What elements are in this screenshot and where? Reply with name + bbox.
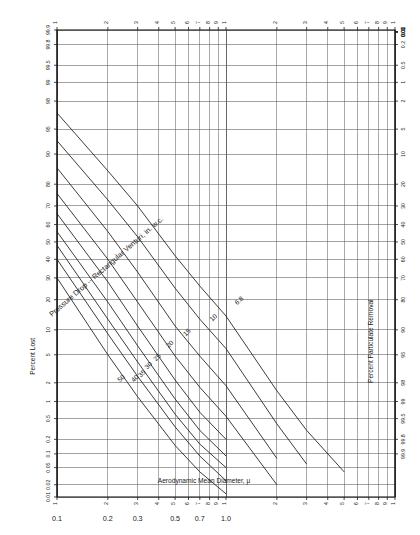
tick-label-top-16: 8 bbox=[374, 21, 380, 24]
tick-label-top-4: 5 bbox=[170, 21, 176, 24]
tick-label-top-17: 9 bbox=[382, 21, 388, 24]
axis-title-right: Percent Particulate Removal bbox=[367, 299, 374, 383]
tick-label-top-12: 4 bbox=[323, 21, 329, 24]
tick-label-bottom-minor-3: 4 bbox=[154, 502, 160, 505]
tick-label-right-8: 5 bbox=[400, 128, 406, 131]
tick-label-bottom-minor-2: 3 bbox=[133, 502, 139, 505]
tick-label-left-8: 70 bbox=[45, 203, 51, 209]
tick-label-right-6: 1 bbox=[400, 81, 406, 84]
tick-label-top-3: 4 bbox=[154, 21, 160, 24]
curve-label-50: 50 bbox=[116, 373, 126, 383]
tick-label-bottom-minor-6: 7 bbox=[195, 502, 201, 505]
tick-label-left-3: 99 bbox=[45, 79, 51, 85]
curve-pressure-drop-10 bbox=[57, 141, 307, 464]
tick-label-right-20: 99 bbox=[400, 398, 406, 404]
tick-label-right-14: 60 bbox=[400, 256, 406, 262]
tick-label-bottom-minor-11: 3 bbox=[302, 502, 308, 505]
tick-label-left-5: 95 bbox=[45, 126, 51, 132]
tick-label-bottom-minor-10: 2 bbox=[272, 502, 278, 505]
tick-label-left-17: 1 bbox=[45, 400, 51, 403]
tick-label-bottom-1: 0.2 bbox=[103, 514, 113, 523]
tick-label-left-23: 0.01 bbox=[45, 492, 51, 502]
tick-label-top-2: 3 bbox=[133, 21, 139, 24]
tick-label-right-3: 0.1 bbox=[400, 28, 406, 35]
tick-label-bottom-minor-17: 9 bbox=[382, 502, 388, 505]
curve-pressure-drop-25 bbox=[57, 214, 226, 440]
tick-label-left-22: 0.02 bbox=[45, 480, 51, 490]
tick-label-right-12: 40 bbox=[400, 222, 406, 228]
tick-label-bottom-minor-1: 2 bbox=[103, 502, 109, 505]
log-probability-nomograph: 50403530252015106.899.999.899.5999895908… bbox=[0, 0, 420, 535]
tick-label-top-13: 5 bbox=[339, 21, 345, 24]
tick-label-right-10: 20 bbox=[400, 181, 406, 187]
tick-label-bottom-minor-0: 1 bbox=[52, 502, 58, 505]
tick-label-right-19: 98 bbox=[400, 380, 406, 386]
tick-label-bottom-minor-13: 5 bbox=[339, 502, 345, 505]
tick-label-top-15: 7 bbox=[364, 21, 370, 24]
tick-label-bottom-0: 0.1 bbox=[52, 514, 62, 523]
tick-label-left-21: 0.05 bbox=[45, 462, 51, 472]
axis-title-left: Percent Lost bbox=[29, 338, 36, 375]
curve-label-20: 20 bbox=[165, 339, 175, 349]
tick-label-left-13: 20 bbox=[45, 297, 51, 303]
tick-label-bottom-minor-15: 7 bbox=[364, 502, 370, 505]
tick-label-bottom-minor-5: 6 bbox=[184, 502, 190, 505]
tick-label-right-11: 30 bbox=[400, 203, 406, 209]
tick-label-bottom-minor-8: 9 bbox=[213, 502, 219, 505]
tick-label-bottom-3: 0.5 bbox=[170, 514, 180, 523]
tick-label-left-11: 40 bbox=[45, 256, 51, 262]
tick-label-bottom-minor-7: 8 bbox=[205, 502, 211, 505]
tick-label-right-5: 0.5 bbox=[400, 62, 406, 69]
tick-label-top-1: 2 bbox=[103, 21, 109, 24]
tick-label-top-10: 2 bbox=[272, 21, 278, 24]
tick-label-right-17: 90 bbox=[400, 327, 406, 333]
tick-label-bottom-minor-12: 4 bbox=[323, 502, 329, 505]
tick-label-top-7: 8 bbox=[205, 21, 211, 24]
curve-group bbox=[57, 113, 344, 494]
tick-label-bottom-minor-9: 1 bbox=[221, 502, 227, 505]
tick-label-left-0: 99.9 bbox=[45, 25, 51, 35]
chart-figure: 50403530252015106.899.999.899.5999895908… bbox=[0, 0, 420, 535]
tick-label-bottom-2: 0.3 bbox=[133, 514, 143, 523]
curve-label-6-8: 6.8 bbox=[233, 294, 245, 306]
tick-label-right-22: 99.8 bbox=[400, 434, 406, 444]
tick-label-right-7: 2 bbox=[400, 100, 406, 103]
tick-label-top-9: 1 bbox=[221, 21, 227, 24]
tick-label-left-4: 98 bbox=[45, 98, 51, 104]
tick-label-right-13: 50 bbox=[400, 239, 406, 245]
curve-label-30: 30 bbox=[143, 360, 153, 370]
tick-label-right-4: 0.2 bbox=[400, 41, 406, 48]
tick-label-top-6: 7 bbox=[195, 21, 201, 24]
tick-label-left-1: 99.8 bbox=[45, 39, 51, 49]
curve-pressure-drop-15 bbox=[57, 168, 277, 459]
axis-title-x: Aerodynamic Mean Diameter, μ bbox=[158, 477, 251, 485]
tick-label-top-8: 9 bbox=[213, 21, 219, 24]
tick-label-left-20: 0.1 bbox=[45, 450, 51, 457]
curve-label-25: 25 bbox=[152, 352, 162, 362]
tick-label-right-16: 80 bbox=[400, 297, 406, 303]
tick-label-bottom-minor-16: 8 bbox=[374, 502, 380, 505]
tick-label-top-5: 6 bbox=[184, 21, 190, 24]
tick-label-left-7: 80 bbox=[45, 181, 51, 187]
tick-label-bottom-minor-14: 6 bbox=[353, 502, 359, 505]
tick-label-bottom-minor-18: 1 bbox=[390, 502, 396, 505]
tick-label-right-15: 70 bbox=[400, 275, 406, 281]
curve-pressure-drop-30 bbox=[57, 232, 226, 456]
curve-pressure-drop-50 bbox=[57, 278, 226, 494]
tick-label-left-12: 30 bbox=[45, 275, 51, 281]
tick-label-right-9: 10 bbox=[400, 151, 406, 157]
tick-label-left-6: 90 bbox=[45, 151, 51, 157]
tick-label-top-0: 1 bbox=[52, 21, 58, 24]
tick-label-left-14: 10 bbox=[45, 327, 51, 333]
tick-label-left-15: 5 bbox=[45, 353, 51, 356]
tick-label-top-18: 1 bbox=[390, 21, 396, 24]
curve-pressure-drop-20 bbox=[57, 194, 277, 485]
tick-label-left-16: 2 bbox=[45, 381, 51, 384]
tick-label-right-18: 95 bbox=[400, 352, 406, 358]
tick-label-bottom-minor-4: 5 bbox=[170, 502, 176, 505]
tick-label-bottom-5: 1.0 bbox=[221, 514, 231, 523]
tick-label-top-14: 6 bbox=[353, 21, 359, 24]
tick-label-left-9: 60 bbox=[45, 222, 51, 228]
tick-label-top-11: 3 bbox=[302, 21, 308, 24]
tick-label-left-10: 50 bbox=[45, 239, 51, 245]
